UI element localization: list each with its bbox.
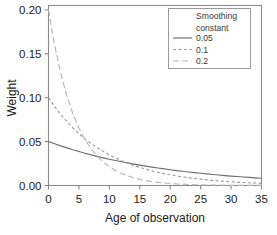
x-axis-title: Age of observation [105, 211, 205, 225]
x-tick-label: 5 [76, 193, 82, 205]
x-tick-label: 10 [103, 193, 116, 205]
y-axis-title: Weight [5, 79, 19, 117]
x-tick-label: 0 [45, 193, 51, 205]
y-tick-label: 0.20 [19, 4, 41, 16]
legend-label-0-05[interactable]: 0.05 [196, 33, 213, 43]
x-tick-label: 35 [255, 193, 268, 205]
chart-container: 0.000.050.100.150.20 05101520253035 Weig… [0, 0, 277, 235]
y-tick-label: 0.10 [19, 92, 41, 104]
y-tick-label: 0.15 [19, 48, 41, 60]
legend[interactable]: Smoothing constant 0.050.10.2 [169, 9, 251, 69]
x-tick-label: 25 [194, 193, 207, 205]
y-tick-label: 0.05 [19, 136, 41, 148]
x-tick-label: 15 [133, 193, 146, 205]
legend-label-0-2[interactable]: 0.2 [196, 56, 208, 66]
legend-title-line1: Smoothing [196, 11, 237, 21]
x-tick-label: 20 [164, 193, 177, 205]
weight-decay-line-chart: 0.000.050.100.150.20 05101520253035 Weig… [0, 0, 277, 235]
y-tick-label: 0.00 [19, 180, 41, 192]
legend-title-line2: constant [196, 23, 229, 33]
x-tick-label: 30 [225, 193, 238, 205]
legend-label-0-1[interactable]: 0.1 [196, 45, 208, 55]
